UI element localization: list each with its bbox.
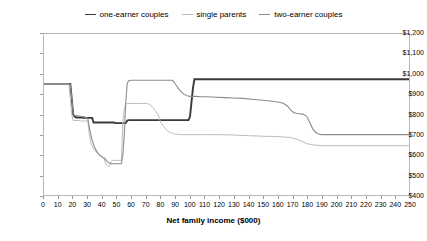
- x-axis-tick-mark: [307, 196, 308, 199]
- y-axis-tick-mark: [40, 135, 43, 136]
- x-axis-tick-mark: [410, 196, 411, 199]
- y-axis-tick-label: $700: [408, 131, 424, 139]
- legend-label: two-earner couples: [274, 10, 342, 19]
- x-axis-tick-mark: [234, 196, 235, 199]
- y-axis-tick-label: $1,000: [403, 70, 424, 78]
- y-axis-tick-mark: [40, 94, 43, 95]
- x-axis-tick-mark: [146, 196, 147, 199]
- x-axis-tick-mark: [293, 196, 294, 199]
- x-axis-tick-mark: [87, 196, 88, 199]
- chart-legend: one-earner couplessingle parentstwo-earn…: [0, 7, 427, 21]
- x-axis-tick-label: 180: [301, 201, 313, 209]
- x-axis-tick-mark: [381, 196, 382, 199]
- x-axis-tick-label: 80: [157, 201, 165, 209]
- x-axis-tick-label: 100: [184, 201, 196, 209]
- y-axis-tick-mark: [40, 155, 43, 156]
- x-axis-title: Net family income ($000): [0, 216, 427, 226]
- plot-area: [43, 33, 410, 196]
- y-axis-tick-label: $600: [408, 151, 424, 159]
- x-axis-tick-label: 220: [360, 201, 372, 209]
- legend-item-2[interactable]: two-earner couples: [259, 10, 342, 19]
- x-axis-tick-label: 150: [257, 201, 269, 209]
- legend-swatch-line-icon: [85, 14, 96, 15]
- x-axis-tick-label: 60: [127, 201, 135, 209]
- x-axis-tick-label: 120: [213, 201, 225, 209]
- x-axis-tick-label: 250: [404, 201, 416, 209]
- x-axis-tick-label: 230: [375, 201, 387, 209]
- x-axis-tick-mark: [190, 196, 191, 199]
- x-axis-tick-mark: [102, 196, 103, 199]
- y-axis-tick-label: $800: [408, 111, 424, 119]
- x-axis-tick-label: 170: [287, 201, 299, 209]
- y-axis-tick-mark: [40, 74, 43, 75]
- x-axis-tick-label: 200: [331, 201, 343, 209]
- x-axis-tick-mark: [43, 196, 44, 199]
- legend-swatch-line-icon: [182, 14, 193, 15]
- x-axis-tick-mark: [204, 196, 205, 199]
- x-axis-tick-mark: [263, 196, 264, 199]
- legend-label: one-earner couples: [100, 10, 169, 19]
- x-axis-tick-mark: [72, 196, 73, 199]
- legend-item-0[interactable]: one-earner couples: [85, 10, 169, 19]
- x-axis-tick-label: 190: [316, 201, 328, 209]
- x-axis-tick-mark: [395, 196, 396, 199]
- x-axis-tick-mark: [351, 196, 352, 199]
- y-axis-tick-mark: [40, 176, 43, 177]
- y-axis-tick-label: $500: [408, 172, 424, 180]
- x-axis-tick-mark: [160, 196, 161, 199]
- legend-swatch-line-icon: [259, 14, 270, 15]
- x-axis-tick-label: 240: [389, 201, 401, 209]
- series-line-0: [44, 79, 409, 123]
- x-axis-tick-label: 20: [68, 201, 76, 209]
- x-axis-tick-label: 70: [142, 201, 150, 209]
- x-axis-tick-mark: [219, 196, 220, 199]
- x-axis-tick-mark: [278, 196, 279, 199]
- x-axis-tick-label: 130: [228, 201, 240, 209]
- x-axis-tick-label: 30: [83, 201, 91, 209]
- x-axis-tick-mark: [249, 196, 250, 199]
- legend-label: single parents: [197, 10, 247, 19]
- x-axis-tick-mark: [116, 196, 117, 199]
- x-axis-tick-mark: [58, 196, 59, 199]
- x-axis-tick-label: 90: [171, 201, 179, 209]
- x-axis-tick-mark: [175, 196, 176, 199]
- series-lines: [44, 34, 409, 195]
- chart-container: one-earner couplessingle parentstwo-earn…: [0, 0, 427, 241]
- y-axis-tick-label: $1,200: [403, 29, 424, 37]
- x-axis-tick-label: 140: [243, 201, 255, 209]
- x-axis-tick-label: 160: [272, 201, 284, 209]
- x-axis-tick-label: 210: [345, 201, 357, 209]
- x-axis-tick-label: 50: [112, 201, 120, 209]
- x-axis-tick-label: 10: [54, 201, 62, 209]
- x-axis-tick-mark: [366, 196, 367, 199]
- x-axis-tick-label: 110: [199, 201, 210, 209]
- x-axis-tick-label: 0: [41, 201, 45, 209]
- x-axis-tick-mark: [337, 196, 338, 199]
- x-axis-tick-label: 40: [98, 201, 106, 209]
- x-axis-tick-mark: [322, 196, 323, 199]
- x-axis-tick-mark: [131, 196, 132, 199]
- legend-item-1[interactable]: single parents: [182, 10, 247, 19]
- y-axis-tick-mark: [40, 33, 43, 34]
- y-axis-tick-label: $900: [408, 90, 424, 98]
- y-axis-tick-label: $1,100: [403, 49, 424, 57]
- y-axis-tick-mark: [40, 53, 43, 54]
- y-axis-tick-mark: [40, 115, 43, 116]
